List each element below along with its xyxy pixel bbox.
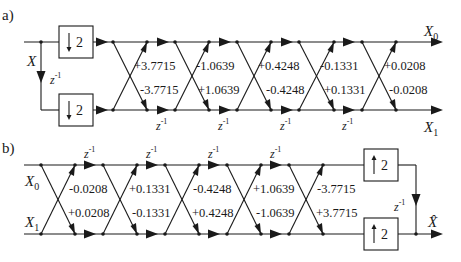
- lattice-stage-b4: [225, 163, 263, 236]
- coef-bottom: +1.0639: [198, 83, 239, 97]
- coef-bottom: +0.1331: [324, 83, 365, 97]
- delay-arrow-icon: [37, 71, 46, 83]
- coef-top: +0.4248: [258, 59, 299, 73]
- coef-top: +0.1331: [129, 182, 170, 196]
- lattice-stage-b5: [287, 163, 325, 236]
- diagram-svg: a) X z-1 2 2: [0, 0, 461, 262]
- output-label-x0: X0: [423, 23, 438, 42]
- coef-top: -0.0208: [69, 182, 108, 196]
- lattice-stage-b2: [101, 163, 139, 236]
- input-label-x: X: [26, 53, 37, 69]
- part-a-label: a): [2, 7, 14, 24]
- downsample-box-top: 2: [59, 26, 93, 58]
- delay-label: z-1: [341, 117, 353, 133]
- delay-label: z-1: [145, 145, 157, 161]
- coef-top: +0.0208: [384, 59, 425, 73]
- part-a-analysis: a) X z-1 2 2: [2, 7, 443, 138]
- upsample-box-bottom: 2: [364, 218, 398, 250]
- coef-top: -1.0639: [196, 59, 235, 73]
- lattice-stage-a1: [111, 40, 149, 112]
- upsample-box-top: 2: [364, 149, 398, 181]
- lattice-stage-b1: [39, 163, 77, 236]
- coef-top: +3.7715: [134, 59, 175, 73]
- coef-bottom: +0.4248: [192, 206, 233, 220]
- coef-top: -3.7715: [317, 182, 356, 196]
- delay-label: z-1: [217, 117, 229, 133]
- delay-label: z-1: [269, 145, 281, 161]
- output-arrow-icon: [431, 230, 443, 239]
- delay-arrow-icon: [412, 194, 421, 206]
- svg-text:2: 2: [76, 103, 83, 118]
- svg-text:2: 2: [381, 158, 388, 173]
- delay-label: z-1: [49, 71, 61, 87]
- coef-top: -0.1331: [320, 59, 359, 73]
- coef-bottom: +0.0208: [68, 206, 109, 220]
- output-label-x1: X1: [423, 119, 438, 138]
- svg-text:2: 2: [76, 35, 83, 50]
- coef-bottom: -3.7715: [140, 83, 179, 97]
- lattice-stage-a3: [235, 40, 273, 112]
- lattice-stage-a5: [360, 40, 398, 112]
- coef-bottom: -1.0639: [256, 206, 295, 220]
- lattice-filter-diagram: a) X z-1 2 2: [0, 0, 461, 262]
- output-arrow-icon: [431, 106, 443, 115]
- svg-text:2: 2: [381, 227, 388, 242]
- delay-label: z-1: [155, 117, 167, 133]
- downsample-box-bottom: 2: [59, 94, 93, 126]
- part-b-synthesis: b) X0 X1: [2, 140, 443, 250]
- lattice-stage-b3: [163, 163, 201, 236]
- delay-label: z-1: [279, 117, 291, 133]
- lattice-stage-a4: [297, 40, 336, 112]
- delay-label: z-1: [83, 145, 95, 161]
- coef-top: +1.0639: [253, 182, 294, 196]
- input-label-x1: X1: [24, 214, 39, 233]
- part-b-label: b): [2, 140, 15, 157]
- coef-top: -0.4248: [193, 182, 232, 196]
- output-label-xhat: X̂: [427, 214, 438, 230]
- delay-label: z-1: [207, 145, 219, 161]
- input-label-x0: X0: [24, 173, 39, 192]
- coef-bottom: -0.1331: [132, 206, 171, 220]
- coef-bottom: -0.0208: [389, 83, 428, 97]
- delay-label: z-1: [393, 198, 405, 214]
- coef-bottom: +3.7715: [316, 206, 357, 220]
- coef-bottom: -0.4248: [266, 83, 305, 97]
- lattice-stage-a2: [173, 40, 211, 112]
